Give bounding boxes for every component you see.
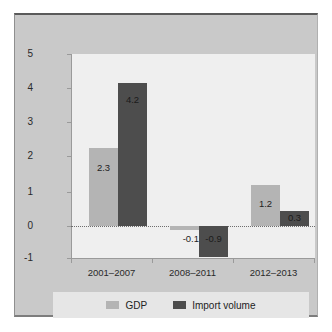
figure: 5 4 3 2 1 0 -1 2.3 4.2 -0.1 -0.9 1.2 xyxy=(0,0,332,332)
y-tick-label-3: 3 xyxy=(9,117,33,127)
y-tick-label-neg1: -1 xyxy=(9,253,33,263)
legend-swatch-gdp-icon xyxy=(106,301,119,309)
y-tick-label-0: 0 xyxy=(9,221,33,231)
y-tick-label-1: 1 xyxy=(9,187,33,197)
x-tick-mark-sep-2 xyxy=(233,258,234,263)
y-tick-mark-4 xyxy=(67,88,72,89)
bar-gdp-2008-2011[interactable] xyxy=(170,226,199,230)
y-tick-mark-3 xyxy=(67,122,72,123)
x-tick-mark-right xyxy=(314,258,315,263)
y-tick-label-2: 2 xyxy=(9,151,33,161)
y-tick-label-5: 5 xyxy=(9,49,33,59)
legend-label-import-volume: Import volume xyxy=(192,300,255,311)
legend-entry-gdp[interactable]: GDP xyxy=(106,300,147,311)
x-tick-mark-sep-1 xyxy=(152,258,153,263)
bar-value-gdp-2008-2011: -0.1 xyxy=(163,234,199,244)
legend-label-gdp: GDP xyxy=(125,300,147,311)
chart-panel: 5 4 3 2 1 0 -1 2.3 4.2 -0.1 -0.9 1.2 xyxy=(14,13,318,317)
x-tick-label-2001-2007: 2001–2007 xyxy=(71,267,152,278)
x-axis-line xyxy=(71,258,315,259)
x-tick-label-2012-2013: 2012–2013 xyxy=(233,267,314,278)
legend-swatch-import-volume-icon xyxy=(173,301,186,309)
bar-value-import-2001-2007: 4.2 xyxy=(118,95,147,105)
bar-value-import-2008-2011: -0.9 xyxy=(199,234,228,244)
bar-value-import-2012-2013: 0.3 xyxy=(280,213,309,223)
legend: GDP Import volume xyxy=(53,292,309,318)
bar-gdp-2001-2007[interactable] xyxy=(89,148,118,226)
legend-entry-import-volume[interactable]: Import volume xyxy=(173,300,255,311)
y-tick-mark-1 xyxy=(67,192,72,193)
y-tick-label-4: 4 xyxy=(9,83,33,93)
x-tick-label-2008-2011: 2008–2011 xyxy=(152,267,233,278)
y-tick-mark-5 xyxy=(67,54,72,55)
bar-value-gdp-2012-2013: 1.2 xyxy=(251,199,280,209)
y-tick-mark-2 xyxy=(67,156,72,157)
bar-value-gdp-2001-2007: 2.3 xyxy=(89,163,118,173)
x-tick-mark-left xyxy=(71,258,72,263)
